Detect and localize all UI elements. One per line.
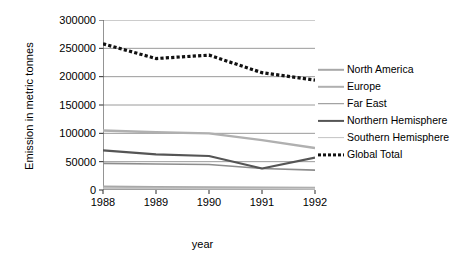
legend-swatch-icon [318,133,344,143]
legend-swatch-icon [318,82,344,92]
y-axis-tick-200000: 200000 [30,71,96,82]
y-axis-tick-250000: 250000 [30,43,96,54]
legend-label: Southern Hemisphere [347,132,449,143]
chart-legend: North AmericaEuropeFar EastNorthern Hemi… [318,61,470,163]
legend-label: North America [347,64,414,75]
legend-label: Northern Hemisphere [347,115,447,126]
legend-swatch-icon [318,150,344,160]
legend-item-europe[interactable]: Europe [318,78,470,95]
x-tick-marks [103,190,315,194]
y-axis-tick-300000: 300000 [30,15,96,26]
legend-item-southern-hemisphere[interactable]: Southern Hemisphere [318,129,470,146]
y-axis-tick-0: 0 [30,185,96,196]
legend-label: Europe [347,81,381,92]
x-axis-label: year [95,238,310,250]
legend-swatch-icon [318,99,344,109]
legend-item-north-america[interactable]: North America [318,61,470,78]
legend-swatch-icon [318,116,344,126]
legend-item-northern-hemisphere[interactable]: Northern Hemisphere [318,112,470,129]
y-tick-marks [99,20,103,190]
y-axis-tick-100000: 100000 [30,128,96,139]
y-axis-tick-50000: 50000 [30,157,96,168]
emissions-line-chart: Emission in metric tonnes 300000 250000 … [0,0,473,263]
legend-item-far-east[interactable]: Far East [318,95,470,112]
legend-label: Far East [347,98,387,109]
tick-marks [95,20,323,205]
legend-label: Global Total [347,149,402,160]
legend-item-global-total[interactable]: Global Total [318,146,470,163]
legend-swatch-icon [318,65,344,75]
y-axis-tick-150000: 150000 [30,100,96,111]
